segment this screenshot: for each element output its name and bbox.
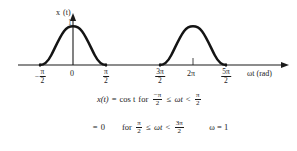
x-axis (18, 62, 289, 68)
eq2-lower-bound-fraction: π 2 (136, 120, 142, 136)
eq1-relation-left: ≤ (167, 95, 172, 104)
eq2-upper-bound-fraction: 3π 2 (175, 120, 184, 136)
x-axis-label: ωt (rad) (247, 70, 272, 78)
tick-label-two-pi: 2π (187, 70, 195, 78)
tick-label-half-pi: π 2 (103, 68, 109, 85)
eq1-lower-denominator: 2 (156, 100, 160, 108)
y-axis-label-argument: (t) (63, 8, 71, 17)
figure-container: x(t) 1 ωt (rad) − π 2 0 π 2 3π 2 2π 5π 2… (0, 0, 297, 151)
tick-label-denominator: 2 (224, 77, 228, 85)
eq2-relation-left: ≤ (146, 123, 151, 132)
equation-line-2: = 0 for π 2 ≤ ωt < 3π 2 ω = 1 (0, 120, 297, 136)
y-axis-label: x(t) (56, 9, 71, 17)
equation-line-1: x(t) = cos t for −π 2 ≤ ωt < π 2 (0, 92, 297, 108)
eq2-lower-denominator: 2 (137, 128, 141, 136)
eq2-equals: = (93, 123, 98, 132)
tick-label-origin: 0 (70, 70, 74, 78)
y-axis-label-variable: x (56, 8, 60, 17)
equation-block: x(t) = cos t for −π 2 ≤ ωt < π 2 (0, 92, 297, 136)
eq1-equals: = (112, 95, 117, 104)
tick-label-three-half-pi: 3π 2 (155, 68, 165, 85)
eq2-connector: for (122, 123, 132, 132)
eq1-lhs: x(t) (97, 95, 109, 104)
eq2-variable: ωt (154, 123, 162, 132)
eq1-connector: for (138, 95, 148, 104)
tick-label-sign: − (35, 73, 39, 81)
eq2-relation-right: < (165, 123, 170, 132)
eq2-upper-denominator: 2 (177, 128, 181, 136)
eq1-variable: ωt (174, 95, 182, 104)
tick-marks (40, 58, 226, 67)
eq2-condition: ω = 1 (209, 123, 228, 132)
tick-label-denominator: 2 (104, 77, 108, 85)
tick-label-five-half-pi: 5π 2 (221, 68, 231, 85)
eq2-value: 0 (101, 123, 105, 132)
x-axis-arrowhead (281, 62, 289, 68)
tick-label-denominator: 2 (40, 77, 44, 85)
eq1-expression: cos t (119, 95, 135, 104)
tick-label-neg-half-pi: − π 2 (35, 68, 46, 85)
eq1-upper-bound-fraction: π 2 (195, 92, 201, 108)
eq1-relation-right: < (186, 95, 191, 104)
tick-label-denominator: 2 (158, 77, 162, 85)
y-peak-label: 1 (68, 19, 72, 27)
eq1-lower-bound-fraction: −π 2 (153, 92, 162, 108)
eq1-upper-denominator: 2 (196, 100, 200, 108)
